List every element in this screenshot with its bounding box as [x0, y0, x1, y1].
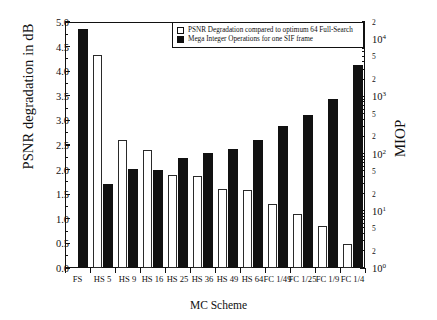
x-axis-tick-mark: [90, 268, 91, 273]
y-axis-right-title: MIOP: [392, 94, 409, 184]
chart-figure: PSNR degradation in dB MIOP MC Scheme 0.…: [0, 0, 437, 320]
x-axis-tick-label: HS 49: [217, 274, 239, 284]
x-axis-tick-label: HS 25: [167, 274, 189, 284]
bar: [143, 150, 153, 268]
bar: [278, 126, 288, 268]
y-axis-right-tick-label: 100: [372, 262, 386, 275]
y-axis-right-tick-label: 5: [372, 52, 376, 61]
y-axis-left-tick-label: 0.5: [35, 238, 69, 249]
bar: [253, 140, 263, 268]
y-axis-right-tick-label: 102: [372, 147, 386, 160]
x-axis-tick-mark: [340, 268, 341, 273]
x-axis-tick-mark: [165, 268, 166, 273]
bar: [243, 190, 253, 268]
bar: [328, 99, 338, 268]
bar-series-layer: [65, 22, 365, 268]
y-axis-right-tick-label: 2: [372, 132, 376, 141]
y-axis-right-tick-label: 5: [372, 166, 376, 175]
x-axis-title: MC Scheme: [0, 299, 437, 311]
bar: [203, 153, 213, 268]
bar: [343, 244, 353, 268]
bar: [303, 115, 313, 268]
bar: [268, 204, 278, 268]
y-axis-right-tick-label: 104: [372, 33, 386, 46]
bar: [318, 226, 328, 268]
x-axis-tick-mark: [265, 268, 266, 273]
chart-legend: PSNR Degradation compared to optimum 64 …: [172, 22, 364, 48]
legend-item: PSNR Degradation compared to optimum 64 …: [177, 26, 359, 35]
x-axis-tick-mark: [240, 268, 241, 273]
x-axis-tick-label: FC 1/9: [316, 274, 340, 284]
x-axis-tick-mark: [315, 268, 316, 273]
y-axis-left-tick-label: 0.0: [35, 263, 69, 274]
x-axis-tick-label: HS 64: [242, 274, 264, 284]
y-axis-right-tick-label: 101: [372, 205, 386, 218]
y-axis-left-tick-label: 3.0: [35, 115, 69, 126]
y-axis-right-tick-label: 2: [372, 189, 376, 198]
x-axis-tick-mark: [190, 268, 191, 273]
x-axis-tick-mark: [140, 268, 141, 273]
bar: [118, 140, 128, 268]
y-axis-left-tick-label: 2.5: [35, 140, 69, 151]
legend-swatch-black-icon: [177, 36, 184, 43]
x-axis-tick-label: FC 1/49: [264, 274, 292, 284]
y-axis-left-tick-label: 3.5: [35, 90, 69, 101]
bar: [228, 149, 238, 268]
x-axis-tick-mark: [65, 268, 66, 273]
bar: [128, 169, 138, 268]
x-axis-tick-label: FC 1/4: [341, 274, 365, 284]
y-axis-left-tick-label: 4.0: [35, 66, 69, 77]
bar: [168, 175, 178, 268]
x-axis-tick-label: FS: [73, 274, 83, 284]
y-axis-right-tick-label: 5: [372, 224, 376, 233]
y-axis-right-tick-label: 2: [372, 246, 376, 255]
y-axis-left-tick-label: 5.0: [35, 17, 69, 28]
y-axis-left-title: PSNR degradation in dB: [20, 7, 37, 187]
x-axis-tick-mark: [290, 268, 291, 273]
x-axis-tick-mark: [215, 268, 216, 273]
legend-item: Mega Integer Operations for one SIF fram…: [177, 35, 359, 44]
bar: [218, 189, 228, 268]
x-axis-tick-label: HS 5: [94, 274, 111, 284]
bar: [178, 158, 188, 268]
bar: [78, 29, 88, 268]
y-axis-left-tick-label: 2.0: [35, 164, 69, 175]
x-axis-tick-mark: [115, 268, 116, 273]
legend-swatch-white-icon: [177, 27, 184, 34]
bar: [93, 55, 103, 268]
bar: [103, 184, 113, 268]
y-axis-right-tick-label: 103: [372, 90, 386, 103]
legend-label: Mega Integer Operations for one SIF fram…: [188, 35, 313, 44]
bar: [293, 214, 303, 268]
y-axis-right-tick-label: 2: [372, 75, 376, 84]
bar: [193, 176, 203, 268]
x-axis-tick-mark: [365, 268, 366, 273]
y-axis-right-tick-label: 2: [372, 18, 376, 27]
legend-label: PSNR Degradation compared to optimum 64 …: [188, 26, 353, 35]
y-axis-right-tick-label: 5: [372, 109, 376, 118]
bar: [353, 65, 363, 268]
x-axis-tick-label: FC 1/25: [289, 274, 317, 284]
x-axis-tick-label: HS 16: [142, 274, 164, 284]
y-axis-left-tick-label: 1.5: [35, 189, 69, 200]
x-axis-tick-label: HS 36: [192, 274, 214, 284]
y-axis-left-tick-label: 4.5: [35, 41, 69, 52]
y-axis-left-tick-label: 1.0: [35, 213, 69, 224]
x-axis-tick-label: HS 9: [119, 274, 136, 284]
bar: [153, 170, 163, 268]
